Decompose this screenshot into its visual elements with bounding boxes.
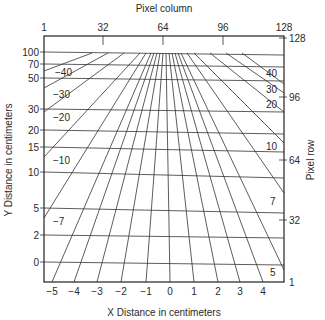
x-distance-label: 0 <box>167 286 173 297</box>
x-distance-label: 4 <box>260 286 266 297</box>
x-distance-label: −2 <box>115 286 127 297</box>
x-distance-label: 1 <box>191 286 197 297</box>
pixel-column-label: 64 <box>157 22 169 33</box>
x-distance-label: −5 <box>46 286 58 297</box>
x-distance-label: 3 <box>237 286 243 297</box>
bottom-axis-title: X Distance in centimeters <box>107 307 220 318</box>
y-distance-label: 30 <box>28 104 40 115</box>
grid-lines <box>40 36 287 282</box>
top-axis-title: Pixel column <box>136 3 193 14</box>
x-line-label-left: −30 <box>53 89 70 100</box>
y-distance-label: 100 <box>22 47 39 58</box>
x-line-label-right: 5 <box>270 267 276 278</box>
y-distance-label: 20 <box>28 125 40 136</box>
y-distance-line <box>44 172 284 178</box>
y-distance-label: 5 <box>33 203 39 214</box>
x-line-label-right: 7 <box>270 196 276 207</box>
right-axis-title: Pixel row <box>305 139 316 180</box>
diagram-canvas: 10070503020151052013264961281289664321−5… <box>0 0 325 320</box>
x-distance-line <box>74 53 154 282</box>
y-distance-line <box>44 64 284 67</box>
x-distance-label: −3 <box>91 286 103 297</box>
y-distance-label: 15 <box>28 142 40 153</box>
pixel-row-label: 96 <box>289 92 301 103</box>
x-line-label-right: 40 <box>266 68 278 79</box>
x-line-label-left: −7 <box>53 216 65 227</box>
x-distance-line <box>44 53 108 88</box>
x-distance-line <box>175 53 240 282</box>
y-distance-label: 2 <box>33 230 39 241</box>
x-line-label-left: −10 <box>53 155 70 166</box>
y-distance-label: 70 <box>28 59 40 70</box>
x-distance-line <box>52 53 151 282</box>
pixel-column-label: 1 <box>41 22 47 33</box>
y-distance-label: 0 <box>33 257 39 268</box>
pixel-row-label: 64 <box>289 155 301 166</box>
y-distance-line <box>44 147 284 152</box>
x-line-label-left: −40 <box>55 67 72 78</box>
y-distance-line <box>44 130 284 134</box>
x-line-label-right: 10 <box>266 141 278 152</box>
pixel-column-label: 96 <box>217 22 229 33</box>
x-distance-line <box>44 53 124 112</box>
plot-frame <box>44 36 284 282</box>
pixel-row-label: 128 <box>289 33 306 44</box>
x-distance-line <box>169 53 194 282</box>
x-line-label-right: 30 <box>266 84 278 95</box>
y-distance-line <box>44 52 284 55</box>
y-distance-line <box>44 109 284 112</box>
y-distance-line <box>44 78 284 81</box>
y-distance-label: 50 <box>28 73 40 84</box>
x-line-label-left: −20 <box>53 112 70 123</box>
x-distance-label: 2 <box>215 286 221 297</box>
pixel-column-label: 128 <box>276 22 293 33</box>
x-distance-line <box>178 53 263 282</box>
x-distance-line <box>166 53 170 282</box>
perspective-grid-diagram: 10070503020151052013264961281289664321−5… <box>0 0 325 320</box>
y-distance-line <box>44 208 284 213</box>
pixel-row-label: 32 <box>289 215 301 226</box>
y-distance-label: 10 <box>28 167 40 178</box>
x-line-label-right: 20 <box>266 99 278 110</box>
left-axis-title: Y Distance in centimeters <box>3 103 14 216</box>
pixel-row-label: 1 <box>289 277 295 288</box>
x-distance-label: −1 <box>140 286 152 297</box>
x-distance-label: −4 <box>68 286 80 297</box>
pixel-column-label: 32 <box>97 22 109 33</box>
y-distance-line <box>44 235 284 238</box>
